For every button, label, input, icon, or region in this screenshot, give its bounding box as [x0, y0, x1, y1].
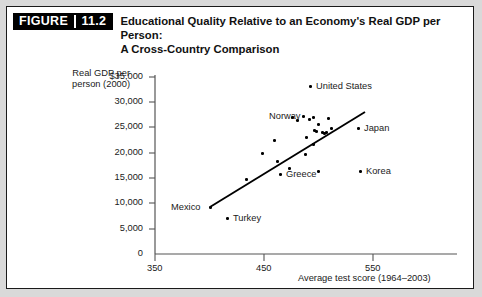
data-point	[304, 153, 307, 156]
data-point-japan	[357, 127, 360, 130]
data-point	[315, 130, 318, 133]
data-point	[317, 123, 320, 126]
data-label-turkey: Turkey	[233, 213, 261, 223]
y-tick-label-35000: $35,000	[87, 71, 143, 81]
data-point-greece	[279, 173, 282, 176]
y-tick-label-0: 0	[87, 248, 143, 258]
data-label-united-states: United States	[316, 81, 372, 91]
y-axis-ticks	[149, 77, 155, 229]
data-point	[305, 136, 308, 139]
data-point	[325, 131, 328, 134]
data-point	[317, 170, 320, 173]
scatter-plot: Real GDP per person (2000) Average test …	[7, 7, 475, 290]
y-tick-label-15000: 15,000	[87, 172, 143, 182]
data-point-united-states	[309, 85, 312, 88]
y-tick-label-10000: 10,000	[87, 197, 143, 207]
data-point	[308, 118, 311, 121]
x-tick-label-550: 550	[365, 263, 381, 273]
data-label-greece: Greece	[286, 169, 317, 179]
data-point	[327, 117, 330, 120]
data-point	[291, 116, 294, 119]
plot-axes	[7, 7, 475, 290]
data-point	[330, 127, 333, 130]
figure-card: FIGURE 11.2 Educational Quality Relative…	[6, 6, 474, 289]
data-point	[273, 139, 276, 142]
data-point-norway	[312, 116, 315, 119]
y-tick-label-5000: 5,000	[87, 223, 143, 233]
trend-line	[210, 112, 365, 207]
data-point	[296, 119, 299, 122]
data-point	[276, 160, 279, 163]
x-tick-label-350: 350	[147, 263, 163, 273]
data-point	[312, 143, 315, 146]
data-label-korea: Korea	[366, 166, 391, 176]
y-tick-label-30000: 30,000	[87, 96, 143, 106]
data-point-mexico	[209, 206, 212, 209]
data-point	[302, 115, 305, 118]
y-tick-label-20000: 20,000	[87, 147, 143, 157]
x-tick-label-450: 450	[256, 263, 272, 273]
x-axis-ticks	[155, 254, 373, 261]
data-label-japan: Japan	[364, 123, 389, 133]
data-point	[245, 178, 248, 181]
y-tick-label-25000: 25,000	[87, 121, 143, 131]
data-point	[261, 152, 264, 155]
data-point-turkey	[226, 217, 229, 220]
data-label-mexico: Mexico	[171, 202, 200, 212]
data-point	[288, 167, 291, 170]
data-point-korea	[359, 170, 362, 173]
